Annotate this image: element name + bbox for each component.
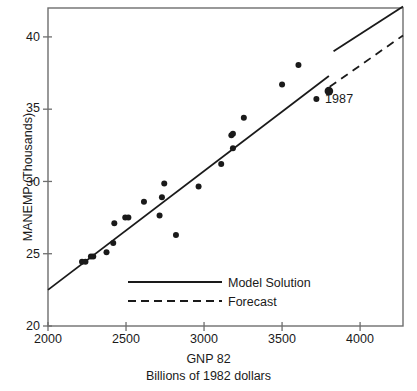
y-tick-label-20: 20 — [6, 319, 40, 333]
data-point — [230, 131, 236, 137]
legend-label-forecast: Forecast — [228, 295, 277, 309]
data-point — [110, 240, 116, 246]
data-point — [111, 220, 117, 226]
x-axis-sublabel: Billions of 1982 dollars — [0, 369, 417, 383]
data-point — [141, 199, 147, 205]
x-tick-label-3000: 3000 — [174, 332, 234, 346]
data-point — [82, 259, 88, 265]
data-point — [230, 145, 236, 151]
data-point — [241, 115, 247, 121]
data-point — [295, 62, 301, 68]
data-point — [173, 232, 179, 238]
data-point — [161, 181, 167, 187]
data-point — [279, 82, 285, 88]
x-tick-label-2000: 2000 — [18, 332, 78, 346]
legend-label-model-solution: Model Solution — [228, 276, 311, 290]
series-line-model-solution-seg1 — [334, 7, 403, 52]
data-point — [104, 249, 110, 255]
y-tick-label-40: 40 — [6, 30, 40, 44]
data-point — [196, 184, 202, 190]
series-line-forecast-seg0 — [330, 35, 403, 86]
data-point — [313, 96, 319, 102]
y-axis-label: MANEMP (Thousands) — [21, 77, 35, 277]
x-tick-label-2500: 2500 — [96, 332, 156, 346]
x-axis-label: GNP 82 — [0, 352, 417, 366]
data-point — [159, 194, 165, 200]
annotation-1987: 1987 — [325, 92, 353, 106]
data-point — [90, 254, 96, 260]
data-point — [157, 212, 163, 218]
plot-frame — [48, 8, 403, 326]
chart-figure: 40 35 30 25 20 2000 2500 3000 3500 4000 … — [0, 0, 417, 391]
x-tick-label-4000: 4000 — [330, 332, 390, 346]
data-point — [125, 215, 131, 221]
x-tick-label-3500: 3500 — [252, 332, 312, 346]
data-point — [218, 161, 224, 167]
